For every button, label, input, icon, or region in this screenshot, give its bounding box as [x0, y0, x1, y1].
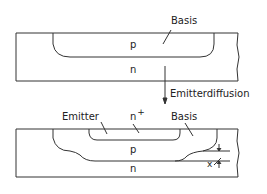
top-basis-leader	[163, 30, 171, 44]
emitter-label: Emitter	[62, 112, 99, 122]
top-n-label: n	[130, 65, 136, 75]
nplus-text: n	[130, 111, 136, 122]
diffusion-arrow-head	[163, 98, 167, 104]
emitterdiffusion-label: Emitterdiffusion	[170, 89, 250, 99]
emitter-leader	[101, 122, 107, 134]
bottom-p-label: p	[130, 145, 136, 155]
bottom-n-label: n	[130, 164, 136, 174]
emitter-region	[89, 129, 180, 140]
bottom-basis-label: Basis	[171, 112, 197, 122]
dimension-x-label: x	[207, 160, 212, 169]
top-basis-label: Basis	[171, 16, 197, 26]
bottom-substrate	[16, 129, 239, 177]
top-p-label: p	[130, 40, 136, 50]
nplus-superscript: +	[137, 107, 145, 117]
nplus-label: n+	[130, 112, 144, 122]
